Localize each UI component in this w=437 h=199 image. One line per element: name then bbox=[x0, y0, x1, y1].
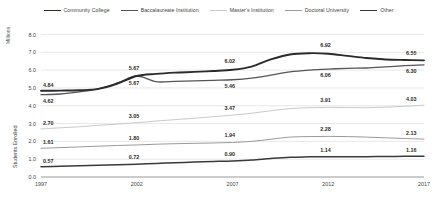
data-point-label: 2.13 bbox=[406, 130, 417, 136]
plot-area bbox=[0, 0, 437, 199]
data-point-label: 4.62 bbox=[43, 98, 54, 104]
data-point-label: 6.02 bbox=[225, 58, 236, 64]
data-point-label: 5.67 bbox=[129, 65, 140, 71]
x-tick-label: 2012 bbox=[313, 181, 343, 187]
y-tick-label: 1.0 bbox=[20, 156, 36, 162]
data-point-label: 5.67 bbox=[129, 80, 140, 86]
y-tick-label: 5.0 bbox=[20, 85, 36, 91]
data-point-label: 1.16 bbox=[406, 147, 417, 153]
y-tick-label: 0.0 bbox=[20, 174, 36, 180]
y-tick-label: 8.0 bbox=[20, 32, 36, 38]
data-point-label: 1.61 bbox=[43, 139, 54, 145]
data-point-label: 2.70 bbox=[43, 120, 54, 126]
data-point-label: 1.94 bbox=[225, 132, 236, 138]
data-point-label: 1.14 bbox=[320, 147, 331, 153]
data-point-label: 4.84 bbox=[43, 82, 54, 88]
data-point-label: 6.55 bbox=[406, 50, 417, 56]
x-tick-label: 1997 bbox=[26, 181, 56, 187]
data-point-label: 3.91 bbox=[320, 97, 331, 103]
y-tick-label: 7.0 bbox=[20, 49, 36, 55]
data-point-label: 6.92 bbox=[320, 42, 331, 48]
data-point-label: 1.80 bbox=[129, 135, 140, 141]
data-point-label: 4.03 bbox=[406, 96, 417, 102]
x-tick-label: 2002 bbox=[122, 181, 152, 187]
y-tick-label: 3.0 bbox=[20, 121, 36, 127]
x-tick-label: 2017 bbox=[409, 181, 437, 187]
data-point-label: 6.30 bbox=[406, 68, 417, 74]
data-point-label: 6.06 bbox=[320, 72, 331, 78]
series-line bbox=[41, 156, 424, 167]
data-point-label: 0.72 bbox=[129, 154, 140, 160]
data-point-label: 3.05 bbox=[129, 113, 140, 119]
data-point-label: 2.28 bbox=[320, 126, 331, 132]
enrollment-line-chart: Community CollegeBaccalaureate Instituti… bbox=[0, 0, 437, 199]
data-point-label: 5.46 bbox=[225, 83, 236, 89]
y-tick-label: 2.0 bbox=[20, 138, 36, 144]
data-point-label: 0.57 bbox=[43, 158, 54, 164]
plot-svg bbox=[0, 0, 437, 199]
data-point-label: 3.47 bbox=[225, 105, 236, 111]
y-tick-label: 6.0 bbox=[20, 67, 36, 73]
x-tick-label: 2007 bbox=[218, 181, 248, 187]
y-tick-label: 4.0 bbox=[20, 103, 36, 109]
data-point-label: 0.90 bbox=[225, 151, 236, 157]
